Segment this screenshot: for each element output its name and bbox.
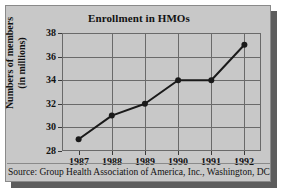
y-axis-label-line1: Numbers of members	[4, 6, 16, 121]
figure-panel: Enrollment in HMOs Numbers of members (i…	[5, 5, 271, 182]
series-polyline	[79, 45, 245, 139]
data-point-marker	[175, 77, 181, 83]
source-note: Source: Group Health Association of Amer…	[6, 167, 272, 177]
chart-figure: Enrollment in HMOs Numbers of members (i…	[0, 0, 282, 193]
y-tick-label: 32	[34, 99, 56, 109]
y-tick-label: 34	[34, 75, 56, 85]
y-tick-label: 38	[34, 28, 56, 38]
x-tick-mark	[145, 151, 146, 155]
line-series	[62, 33, 261, 151]
x-tick-mark	[244, 151, 245, 155]
y-tick-label: 28	[34, 146, 56, 156]
data-point-marker	[208, 77, 214, 83]
y-axis-label-line2: (in millions)	[16, 6, 28, 121]
x-tick-mark	[178, 151, 179, 155]
data-point-marker	[109, 113, 115, 119]
y-axis-label: Numbers of members (in millions)	[4, 6, 34, 121]
x-tick-mark	[112, 151, 113, 155]
x-tick-label: 1992	[224, 157, 264, 167]
data-point-marker	[241, 42, 247, 48]
data-point-marker	[76, 136, 82, 142]
x-tick-mark	[79, 151, 80, 155]
plot-area: 283032343638 198719881989199019911992	[62, 33, 261, 151]
data-point-marker	[142, 101, 148, 107]
source-separator	[7, 163, 271, 164]
y-tick-label: 36	[34, 52, 56, 62]
y-tick-mark	[58, 151, 62, 152]
chart-title: Enrollment in HMOs	[6, 12, 272, 24]
x-tick-mark	[211, 151, 212, 155]
y-tick-label: 30	[34, 122, 56, 132]
